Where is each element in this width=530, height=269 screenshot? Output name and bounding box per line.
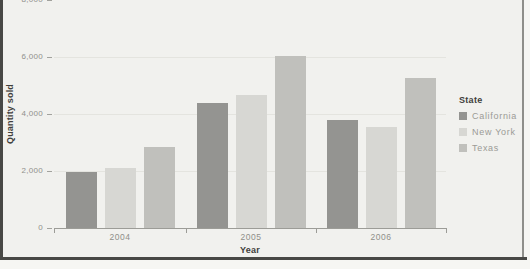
y-tick-8,000: 8,000 (0, 0, 54, 5)
scanned-chart-page: 02,0004,0006,0008,000 Quantity sold Year… (0, 0, 530, 269)
x-axis-tick-3 (446, 228, 447, 233)
y-axis-title: Quantity sold (5, 69, 15, 159)
y-tick-2,000: 2,000 (0, 166, 54, 176)
x-category-label-2004: 2004 (54, 232, 186, 242)
bar-2004-new-york (105, 168, 136, 228)
legend-item-new-york: New York (459, 127, 525, 136)
x-category-label-2006: 2006 (316, 232, 446, 242)
y-tick-6,000: 6,000 (0, 52, 54, 62)
x-axis-title: Year (54, 245, 446, 255)
scan-frame-left-border (0, 0, 3, 260)
bar-2005-california (197, 103, 228, 228)
legend-item-label: Texas (472, 143, 499, 153)
y-tick-mark (47, 171, 52, 172)
legend: State CaliforniaNew YorkTexas (459, 95, 525, 159)
y-tick-mark (47, 114, 52, 115)
legend-swatch-icon (459, 112, 467, 120)
y-tick-label: 8,000 (21, 0, 43, 5)
bar-2004-texas (144, 147, 175, 228)
plot-area (54, 0, 446, 229)
y-tick-label: 4,000 (21, 109, 43, 119)
y-tick-0: 0 (0, 223, 54, 233)
bar-2006-texas (405, 78, 436, 228)
legend-swatch-icon (459, 128, 467, 136)
bar-2005-texas (275, 56, 306, 228)
bar-2006-california (327, 120, 358, 228)
y-tick-mark (47, 0, 52, 1)
y-tick-label: 6,000 (21, 52, 43, 62)
legend-item-california: California (459, 111, 525, 120)
y-tick-label: 0 (38, 223, 43, 233)
y-tick-label: 2,000 (21, 166, 43, 176)
legend-item-label: New York (472, 127, 516, 137)
scan-frame-bottom-border (0, 257, 527, 260)
x-category-label-2005: 2005 (186, 232, 316, 242)
bar-2004-california (66, 172, 97, 228)
legend-items: CaliforniaNew YorkTexas (459, 111, 525, 152)
y-tick-mark (47, 57, 52, 58)
y-tick-mark (47, 228, 52, 229)
legend-title: State (459, 95, 525, 105)
legend-item-label: California (472, 111, 517, 121)
legend-swatch-icon (459, 144, 467, 152)
scan-frame-right-border (522, 0, 524, 258)
bar-2006-new-york (366, 127, 397, 228)
legend-item-texas: Texas (459, 143, 525, 152)
bar-2005-new-york (236, 95, 267, 228)
gridline-6000 (54, 57, 446, 58)
